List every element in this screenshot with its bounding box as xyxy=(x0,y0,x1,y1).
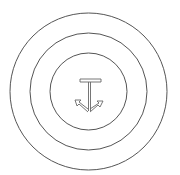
concentric-rings-diagram xyxy=(0,0,180,175)
diagram-canvas xyxy=(0,0,180,175)
anchor-left-arrow xyxy=(75,100,88,112)
anchor-right-arrow xyxy=(90,101,103,112)
anchor-top-bar xyxy=(80,79,101,82)
anchor-icon xyxy=(75,79,103,112)
